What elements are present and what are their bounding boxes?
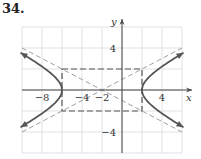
tick-labels: xy−8−4−244−4 xyxy=(35,16,192,138)
x-axis-label: x xyxy=(186,92,192,103)
hyperbola-graph: xy−8−4−244−4 xyxy=(0,0,201,159)
y-axis-label: y xyxy=(110,16,117,27)
y-tick-label: −4 xyxy=(101,127,116,138)
x-tick-label: −2 xyxy=(95,92,110,103)
x-tick-label: −4 xyxy=(75,92,90,103)
x-tick-label: −8 xyxy=(35,92,50,103)
y-tick-label: 4 xyxy=(110,43,116,54)
x-tick-label: 4 xyxy=(159,92,165,103)
